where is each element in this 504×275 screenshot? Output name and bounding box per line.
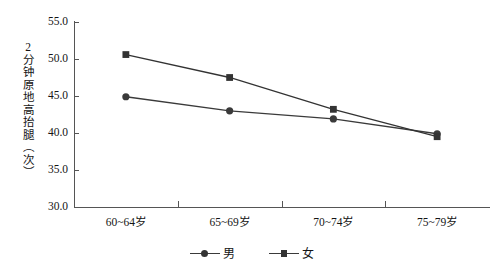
y-axis-tick-label: 35.0 bbox=[30, 164, 68, 176]
series-line bbox=[126, 97, 437, 134]
legend-item[interactable]: 女 bbox=[269, 244, 314, 262]
y-axis-tick-label: 50.0 bbox=[30, 53, 68, 65]
data-point-square bbox=[122, 51, 129, 58]
data-point-circle bbox=[122, 93, 129, 100]
x-axis-tick-label: 65~69岁 bbox=[210, 216, 250, 229]
y-axis-tick-label: 55.0 bbox=[30, 16, 68, 28]
x-axis-tick-label: 75~79岁 bbox=[417, 216, 457, 229]
y-axis-tick-mark bbox=[74, 207, 79, 208]
legend-square-marker-icon bbox=[269, 247, 299, 259]
line-chart: 2分钟原地高抬腿（次） 30.035.040.045.050.055.0 60~… bbox=[0, 0, 504, 275]
data-point-square bbox=[226, 74, 233, 81]
legend-label: 女 bbox=[302, 244, 314, 262]
legend-item[interactable]: 男 bbox=[190, 244, 235, 262]
x-axis-tick-label: 70~74岁 bbox=[313, 216, 353, 229]
data-point-circle bbox=[330, 115, 337, 122]
legend-label: 男 bbox=[223, 244, 235, 262]
chart-legend: 男女 bbox=[0, 244, 504, 262]
y-axis-tick-label: 40.0 bbox=[30, 127, 68, 139]
plot-area bbox=[74, 22, 489, 207]
data-point-circle bbox=[226, 107, 233, 114]
y-axis-tick-label: 30.0 bbox=[30, 201, 68, 213]
series-lines bbox=[74, 22, 489, 207]
series-line bbox=[126, 55, 437, 137]
x-axis-tick-label: 60~64岁 bbox=[106, 216, 146, 229]
data-point-square bbox=[434, 133, 441, 140]
x-axis-line bbox=[74, 207, 490, 208]
y-axis-tick-label: 45.0 bbox=[30, 90, 68, 102]
data-point-square bbox=[330, 106, 337, 113]
legend-circle-marker-icon bbox=[190, 247, 220, 259]
